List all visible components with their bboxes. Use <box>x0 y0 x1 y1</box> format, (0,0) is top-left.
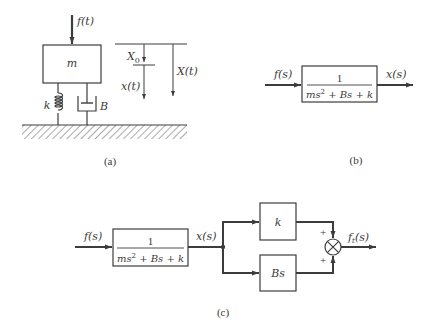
diagram-canvas: f(t) m k B X0 x(t) X(t) <box>0 0 430 329</box>
ground-icon <box>22 125 187 139</box>
spring-icon <box>55 83 63 125</box>
x0-label: X0 <box>126 50 140 65</box>
output-label: x(s) <box>386 68 406 81</box>
lower-block-label: Bs <box>270 267 285 280</box>
tf-denominator: ms2 + Bs + k <box>306 88 373 100</box>
lower-to-sum <box>296 256 333 273</box>
caption-b: (b) <box>350 154 363 167</box>
upper-branch <box>223 222 259 247</box>
tf-numerator: 1 <box>148 235 154 247</box>
tf-numerator: 1 <box>337 72 343 84</box>
spring-label: k <box>44 99 51 112</box>
lower-branch <box>223 247 259 273</box>
caption-a: (a) <box>104 155 117 168</box>
figure-b-transfer-function: f(s) 1 ms2 + Bs + k x(s) (b) <box>265 66 413 167</box>
summing-junction-icon <box>325 239 341 255</box>
input-label: f(s) <box>83 230 102 243</box>
force-label: f(t) <box>76 15 94 28</box>
upper-to-sum <box>296 222 333 238</box>
mass-label: m <box>67 57 77 70</box>
upper-block-label: k <box>275 216 282 229</box>
xt-label: x(t) <box>121 80 140 93</box>
Xt-label: X(t) <box>176 65 198 78</box>
damper-label: B <box>99 100 108 113</box>
figure-c-block-diagram: f(s) 1 ms2 + Bs + k x(s) k Bs + + ft(s) … <box>75 203 376 319</box>
caption-c: (c) <box>217 306 230 319</box>
mid-label: x(s) <box>196 230 216 243</box>
damper-icon <box>78 83 96 125</box>
sum-sign-upper: + <box>320 226 326 238</box>
tf-denominator: ms2 + Bs + k <box>117 252 184 264</box>
sum-sign-lower: + <box>320 254 326 266</box>
input-label: f(s) <box>273 68 292 81</box>
figure-a-mass-spring-damper: f(t) m k B X0 x(t) X(t) <box>22 15 198 168</box>
output-label: ft(s) <box>347 231 369 245</box>
